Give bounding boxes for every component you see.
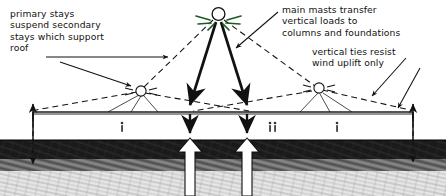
diagram-canvas: primary stays suspend secondary stays wh… [0,0,446,196]
vertical-ties-note: vertical ties resist wind uplift only [312,46,396,69]
ground-layer-topsoil [0,140,446,159]
primary-stay-left [143,20,213,88]
secondary-stay-left-outer [36,92,137,110]
scale-figures [121,122,339,132]
secondary-hangers-group [108,93,352,112]
leader-masts [236,12,278,48]
scale-figure-2 [269,122,277,132]
secondary-stay-left-inner [145,93,249,111]
scale-figure-1 [121,122,124,132]
hanger-l1 [108,95,139,112]
mast-head-node-icon [212,8,225,21]
secondary-stay-right-inner [193,91,312,111]
ground-layer-subsoil [0,171,446,196]
hanger-r1 [300,93,318,112]
mast-leg-left [190,22,216,105]
main-mast-group [190,8,247,105]
columns-group [190,114,247,133]
main-masts-note: main masts transfer vertical loads to co… [282,4,400,38]
secondary-node-right-icon [314,83,324,93]
ground-layer-midsoil [0,159,446,171]
leader-primary-to-node [60,62,131,86]
secondary-nodes [125,83,335,96]
scale-figure-3 [336,122,339,132]
leader-ties-down [398,68,420,108]
secondary-stay-right-outer [322,90,410,110]
hanger-r3 [323,93,352,112]
primary-stays-note: primary stays suspend secondary stays wh… [10,8,104,54]
secondary-node-left-icon [136,86,146,96]
roof-deck [33,112,413,114]
hanger-l3 [144,96,158,112]
ground-strata [0,140,446,196]
